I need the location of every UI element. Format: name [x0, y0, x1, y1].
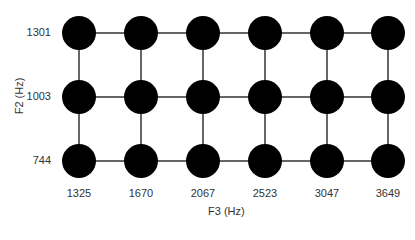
- x-tick-label: 3047: [302, 187, 352, 199]
- y-tick-label: 1301: [11, 26, 51, 38]
- x-tick-label: 1670: [116, 187, 166, 199]
- x-tick-label: 1325: [54, 187, 104, 199]
- x-tick-label: 2067: [178, 187, 228, 199]
- y-tick-label: 744: [11, 154, 51, 166]
- x-tick-label: 3649: [363, 187, 413, 199]
- x-tick-label: 2523: [240, 187, 290, 199]
- x-axis-title: F3 (Hz): [208, 205, 245, 217]
- y-axis-title: F2 (Hz): [13, 71, 25, 121]
